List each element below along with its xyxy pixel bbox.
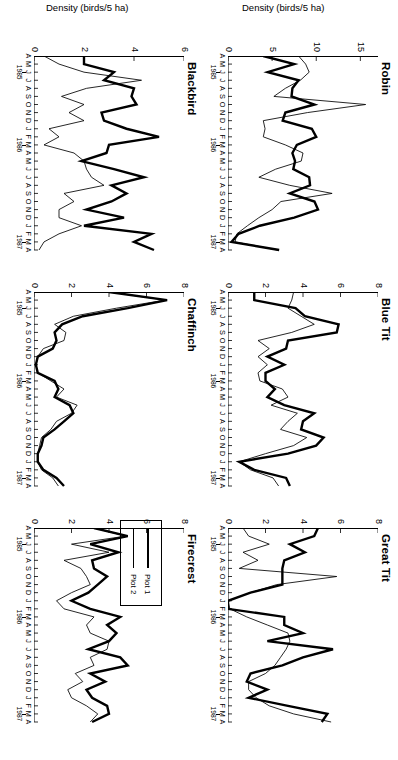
series-line <box>228 528 337 722</box>
month-tick-label: F <box>218 468 226 472</box>
month-tick-label: A <box>218 54 226 59</box>
series-line <box>228 528 333 722</box>
year-tick-mark <box>22 714 26 715</box>
month-tick-label: M <box>24 297 32 303</box>
month-tick-label: J <box>24 639 32 643</box>
year-tick-mark <box>22 145 26 146</box>
month-tick-label: J <box>24 78 32 82</box>
month-tick-label: J <box>218 696 226 700</box>
y-tick-label: 10 <box>312 42 321 52</box>
plot-area: 051015 <box>228 56 378 252</box>
plot-svg <box>34 292 184 488</box>
month-tick-label: A <box>24 387 32 392</box>
month-tick-label: A <box>24 151 32 156</box>
legend-key-thin-line-icon <box>134 528 135 568</box>
year-axis-labels: 198519861987 <box>206 56 217 252</box>
month-tick-label: J <box>24 460 32 464</box>
month-tick-label: A <box>24 484 32 489</box>
month-tick-label: J <box>24 314 32 318</box>
month-tick-label: N <box>218 207 226 212</box>
year-axis-labels: 198519861987 <box>206 292 217 488</box>
year-tick-mark <box>22 308 26 309</box>
panel-chaffinch: Chaffinch 02468 AMJJASONDJFMAMJJASONDJFM… <box>12 258 198 490</box>
month-tick-label: N <box>218 679 226 684</box>
month-tick-label: S <box>24 663 32 668</box>
year-tick-mark <box>216 145 220 146</box>
year-tick-mark <box>216 478 220 479</box>
month-tick-label: N <box>24 110 32 115</box>
year-tick-mark <box>22 617 26 618</box>
axis-lines <box>228 529 378 723</box>
legend-item-plot-2: Plot 2 <box>127 528 141 598</box>
plot-svg <box>228 292 378 488</box>
plot-svg <box>228 56 378 252</box>
year-tick-mark <box>22 72 26 73</box>
panel-row-top: Density (birds/5 ha) Robin 051015 AMJJAS… <box>206 0 392 760</box>
month-tick-label: S <box>218 663 226 668</box>
month-tick-label: S <box>218 330 226 335</box>
month-tick-label: O <box>24 671 32 677</box>
figure-stage: Density (birds/5 ha) Robin 051015 AMJJAS… <box>0 0 398 760</box>
month-tick-label: S <box>218 427 226 432</box>
y-tick-label: 6 <box>142 283 151 288</box>
month-tick-label: A <box>218 86 226 91</box>
month-tick-label: D <box>24 118 32 123</box>
month-tick-label: M <box>218 630 226 636</box>
month-tick-label: N <box>24 207 32 212</box>
month-tick-label: A <box>218 526 226 531</box>
month-tick-label: N <box>218 110 226 115</box>
plot-svg <box>228 528 378 724</box>
y-tick-label: 2 <box>67 283 76 288</box>
month-tick-label: J <box>24 411 32 415</box>
month-tick-label: O <box>218 102 226 108</box>
month-tick-label: S <box>24 191 32 196</box>
series-line <box>36 292 167 486</box>
month-tick-label: O <box>218 338 226 344</box>
y-tick-label: 0 <box>224 283 233 288</box>
month-tick-label: J <box>218 127 226 131</box>
month-tick-label: D <box>218 451 226 456</box>
y-tick-label: 5 <box>268 47 277 52</box>
month-tick-label: D <box>24 215 32 220</box>
month-tick-label: J <box>218 175 226 179</box>
month-tick-label: O <box>218 435 226 441</box>
year-tick-mark <box>216 308 220 309</box>
y-tick-label: 6 <box>336 283 345 288</box>
month-tick-label: J <box>24 647 32 651</box>
month-tick-label: J <box>218 647 226 651</box>
month-tick-label: N <box>218 346 226 351</box>
month-tick-label: A <box>24 720 32 725</box>
y-tick-label: 8 <box>374 283 383 288</box>
plot-area: 02468 <box>34 292 184 488</box>
month-tick-label: M <box>24 533 32 539</box>
plot-svg <box>34 56 184 252</box>
panel-robin: Robin 051015 AMJJASONDJFMAMJJASONDJFMA 1… <box>206 22 392 254</box>
month-tick-label: J <box>218 411 226 415</box>
month-tick-label: S <box>218 191 226 196</box>
y-tick-label: 8 <box>180 519 189 524</box>
panel-row-bottom: Density (birds/5 ha) Blackbird 0246 AMJJ… <box>12 0 198 760</box>
month-tick-label: A <box>218 419 226 424</box>
legend-label: Plot 2 <box>130 574 139 594</box>
month-tick-label: J <box>24 167 32 171</box>
month-tick-label: M <box>218 394 226 400</box>
month-tick-label: N <box>24 443 32 448</box>
month-tick-label: S <box>24 566 32 571</box>
month-tick-label: D <box>218 215 226 220</box>
month-tick-label: S <box>24 94 32 99</box>
month-tick-label: A <box>24 86 32 91</box>
month-tick-label: N <box>218 443 226 448</box>
year-tick-mark <box>216 242 220 243</box>
y-tick-label: 4 <box>299 283 308 288</box>
month-tick-label: M <box>24 158 32 164</box>
plot-area: 0246 <box>34 56 184 252</box>
month-tick-label: D <box>24 687 32 692</box>
month-tick-label: J <box>218 224 226 228</box>
month-tick-label: D <box>24 590 32 595</box>
month-tick-label: A <box>218 623 226 628</box>
month-tick-label: N <box>24 582 32 587</box>
legend: Plot 1 Plot 2 <box>120 520 162 606</box>
year-tick-mark <box>22 242 26 243</box>
panel-great-tit: Great Tit 02468 AMJJASONDJFMAMJJASONDJFM… <box>206 494 392 726</box>
month-tick-label: M <box>24 630 32 636</box>
